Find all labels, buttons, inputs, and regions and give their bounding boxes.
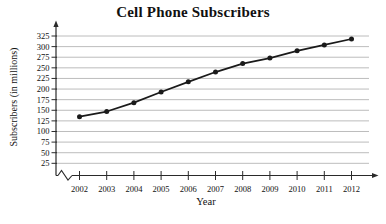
axis-break-mark <box>58 171 72 181</box>
data-point <box>77 114 82 119</box>
data-point <box>159 90 164 95</box>
subscribers-line <box>80 39 352 117</box>
gridlines <box>56 36 369 163</box>
y-tick-label: 200 <box>37 84 50 94</box>
data-point <box>186 79 191 84</box>
y-axis-arrow <box>53 21 58 28</box>
x-tick-label: 2012 <box>343 184 360 194</box>
y-tick-label: 100 <box>37 126 50 136</box>
x-axis-ticks: 2002200320042005200620072008200920102011… <box>71 171 360 194</box>
data-point <box>131 100 136 105</box>
data-point <box>322 42 327 47</box>
x-tick-label: 2002 <box>71 184 88 194</box>
x-tick-label: 2003 <box>98 184 115 194</box>
y-tick-label: 300 <box>37 42 50 52</box>
data-point <box>349 36 354 41</box>
y-tick-label: 225 <box>37 73 50 83</box>
data-points <box>77 36 354 119</box>
cell-phone-subscribers-figure: Cell Phone Subscribers Subscribers (in m… <box>0 0 386 224</box>
y-axis-ticks: 255075100125150175200225250275300325 <box>37 31 57 168</box>
y-tick-label: 325 <box>37 31 50 41</box>
x-tick-label: 2006 <box>180 184 197 194</box>
data-point <box>104 109 109 114</box>
y-tick-label: 75 <box>41 137 50 147</box>
data-point <box>295 48 300 53</box>
x-tick-label: 2011 <box>316 184 333 194</box>
x-tick-label: 2009 <box>261 184 278 194</box>
data-point <box>240 61 245 66</box>
y-tick-label: 175 <box>37 95 50 105</box>
data-point <box>267 56 272 61</box>
x-tick-label: 2010 <box>289 184 306 194</box>
x-tick-label: 2004 <box>125 184 143 194</box>
x-axis-arrow <box>372 173 379 178</box>
y-tick-label: 50 <box>41 148 50 158</box>
line-chart: 2550751001251501752002252502753003252002… <box>0 0 386 224</box>
y-tick-label: 25 <box>41 158 50 168</box>
x-tick-label: 2008 <box>234 184 251 194</box>
x-axis-title: Year <box>56 196 356 207</box>
x-tick-label: 2005 <box>153 184 170 194</box>
y-tick-label: 250 <box>37 63 50 73</box>
y-tick-label: 125 <box>37 116 50 126</box>
x-tick-label: 2007 <box>207 184 224 194</box>
y-tick-label: 150 <box>37 105 50 115</box>
y-tick-label: 275 <box>37 52 50 62</box>
data-point <box>213 70 218 75</box>
